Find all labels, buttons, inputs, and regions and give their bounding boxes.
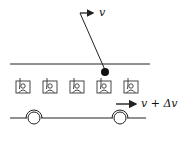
pendulum-bob (101, 68, 109, 76)
pendulum-string (80, 13, 105, 70)
window-2 (43, 78, 57, 93)
window-3 (70, 78, 84, 93)
window-1 (16, 78, 30, 93)
wheel-front (28, 112, 40, 124)
bus-pendulum-diagram (0, 0, 189, 141)
window-5 (124, 78, 138, 93)
wheel-rear (114, 112, 126, 124)
passenger-windows (16, 78, 138, 93)
ball-velocity-label: v (99, 7, 105, 18)
window-4 (97, 78, 111, 93)
bus-velocity-label: v + Δv (141, 98, 178, 109)
